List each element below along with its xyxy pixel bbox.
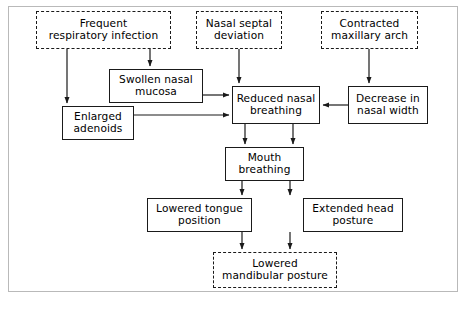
node-label-lowered-mandibular-posture: Lowered mandibular posture [219, 258, 331, 282]
node-contracted-maxillary-arch: Contracted maxillary arch [321, 11, 418, 49]
node-label-nasal-septal-deviation: Nasal septal deviation [203, 18, 275, 42]
node-extended-head-posture: Extended head posture [303, 198, 403, 232]
node-mouth-breathing: Mouth breathing [225, 147, 304, 181]
node-lowered-mandibular-posture: Lowered mandibular posture [213, 252, 337, 288]
node-nasal-septal-deviation: Nasal septal deviation [196, 11, 282, 49]
node-reduced-nasal-breathing: Reduced nasal breathing [232, 86, 320, 124]
node-label-enlarged-adenoids: Enlarged adenoids [71, 111, 126, 135]
node-label-frequent-respiratory-infection: Frequent respiratory infection [46, 18, 161, 42]
node-label-swollen-nasal-mucosa: Swollen nasal mucosa [116, 74, 196, 98]
node-lowered-tongue-position: Lowered tongue position [147, 198, 252, 232]
node-label-reduced-nasal-breathing: Reduced nasal breathing [234, 93, 319, 117]
node-label-mouth-breathing: Mouth breathing [235, 152, 293, 176]
diagram-canvas: Frequent respiratory infectionNasal sept… [0, 0, 466, 310]
node-decrease-in-nasal-width: Decrease in nasal width [348, 86, 428, 124]
diagram-page: Frequent respiratory infectionNasal sept… [0, 0, 466, 310]
node-swollen-nasal-mucosa: Swollen nasal mucosa [109, 69, 203, 103]
node-label-contracted-maxillary-arch: Contracted maxillary arch [328, 18, 411, 42]
node-label-lowered-tongue-position: Lowered tongue position [153, 203, 246, 227]
node-frequent-respiratory-infection: Frequent respiratory infection [36, 11, 171, 49]
node-enlarged-adenoids: Enlarged adenoids [62, 106, 134, 140]
node-label-extended-head-posture: Extended head posture [309, 203, 396, 227]
node-label-decrease-in-nasal-width: Decrease in nasal width [353, 93, 423, 117]
